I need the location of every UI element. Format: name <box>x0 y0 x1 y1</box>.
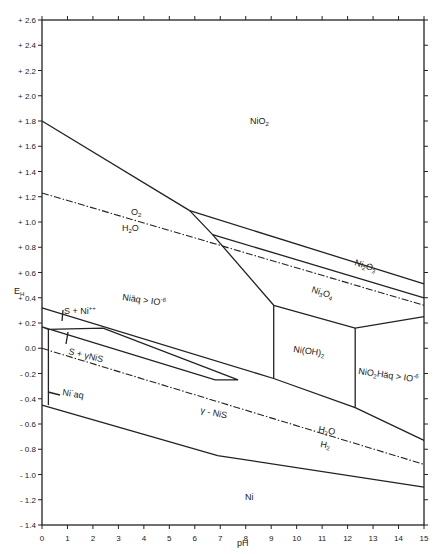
x-tick-label: 12 <box>343 534 352 543</box>
y-tick-label: + 0.2 <box>18 319 37 328</box>
boundary-line <box>274 305 424 328</box>
x-tick-label: 3 <box>116 534 121 543</box>
label-nioh2: Ni(OH)2 <box>293 344 326 359</box>
plot-border <box>42 20 424 525</box>
y-tick-label: - 0.6 <box>20 420 37 429</box>
x-tick-label: 0 <box>40 534 45 543</box>
x-tick-label: 14 <box>394 534 403 543</box>
y-tick-label: + 1.4 <box>18 168 37 177</box>
y-tick-label: - 1.0 <box>20 471 37 480</box>
y-tick-label: + 1.0 <box>18 218 37 227</box>
y-tick-label: - 1.4 <box>20 521 37 530</box>
x-tick-label: 6 <box>193 534 198 543</box>
y-tick-label: 0.0 <box>25 344 37 353</box>
y-tick-label: - 0.4 <box>20 395 37 404</box>
x-tick-label: 1 <box>65 534 70 543</box>
pourbaix-diagram: + 2.6+ 2.4+ 2.2+ 2.0+ 1.8+ 1.6+ 1.4+ 1.2… <box>0 0 445 554</box>
boundary-line <box>42 405 424 487</box>
y-tick-label: + 0.8 <box>18 243 37 252</box>
plot-frame <box>42 20 424 525</box>
label-s-nis: S + γNiS <box>68 346 105 364</box>
label-niaq-low: Ni˙aq <box>62 387 85 401</box>
label-nio2h-aq: NiO2Häq > IO-6 <box>358 365 420 385</box>
x-tick-label: 7 <box>218 534 223 543</box>
label-h2o-lower: H2O <box>317 424 336 438</box>
x-tick-label: 9 <box>269 534 274 543</box>
label-nio2: NiO2 <box>250 116 270 127</box>
y-axis: + 2.6+ 2.4+ 2.2+ 2.0+ 1.8+ 1.6+ 1.4+ 1.2… <box>18 16 428 530</box>
chart-svg: + 2.6+ 2.4+ 2.2+ 2.0+ 1.8+ 1.6+ 1.4+ 1.2… <box>0 0 445 554</box>
label-o2: O2 <box>131 207 142 218</box>
x-tick-label: 15 <box>420 534 429 543</box>
label-ni: Ni <box>245 492 254 502</box>
label-h2o-upper: H2O <box>122 223 139 234</box>
x-axis: 0123456789101112131415 <box>40 16 429 543</box>
y-axis-title: EH <box>14 286 24 297</box>
y-tick-label: + 2.2 <box>18 67 37 76</box>
y-tick-label: + 1.8 <box>18 117 37 126</box>
x-tick-label: 5 <box>167 534 172 543</box>
y-tick-label: + 2.6 <box>18 16 37 25</box>
arrow-s-ni <box>62 310 63 321</box>
x-tick-label: 2 <box>91 534 96 543</box>
y-tick-label: + 0.6 <box>18 269 37 278</box>
y-tick-label: - 1.2 <box>20 496 37 505</box>
y-tick-label: + 2.0 <box>18 92 37 101</box>
y-tick-label: + 2.4 <box>18 41 37 50</box>
boundary-lines <box>42 121 424 487</box>
leader-niaq-low <box>48 392 60 395</box>
x-axis-title: pH <box>237 538 249 548</box>
label-s-ni: S + Ni++ <box>64 305 96 316</box>
label-nis: γ - NiS <box>200 405 228 420</box>
label-h2: H2 <box>319 439 331 452</box>
boundary-line <box>42 121 190 211</box>
label-niaq: Niäq > IO-6 <box>122 291 167 308</box>
x-tick-label: 10 <box>292 534 301 543</box>
y-tick-label: + 1.2 <box>18 193 37 202</box>
y-tick-label: + 1.6 <box>18 142 37 151</box>
boundary-line <box>42 193 424 305</box>
y-tick-label: - 0.8 <box>20 445 37 454</box>
x-tick-label: 11 <box>318 534 327 543</box>
x-tick-label: 4 <box>142 534 147 543</box>
label-ni3o4: Ni3O4 <box>310 284 335 302</box>
y-tick-label: - 0.2 <box>20 370 37 379</box>
label-ni2o3: Ni2O3 <box>353 257 378 275</box>
x-tick-label: 13 <box>369 534 378 543</box>
